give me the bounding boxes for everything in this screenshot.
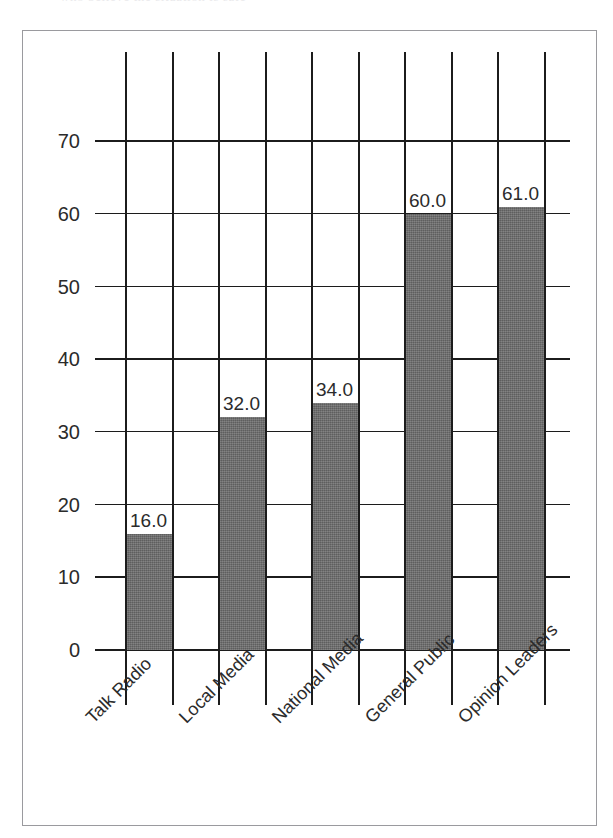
gridline-vertical <box>544 52 546 705</box>
gridline-vertical <box>358 52 360 705</box>
bar <box>313 403 358 650</box>
bar <box>499 207 544 650</box>
bar-value-label: 16.0 <box>128 509 168 533</box>
bar-value-label: 32.0 <box>221 392 261 416</box>
x-tick-label: Local Media <box>176 645 257 726</box>
y-tick-label: 0 <box>34 640 80 660</box>
y-tick-label: 70 <box>34 131 80 151</box>
gridline-vertical <box>451 52 453 705</box>
bar <box>220 417 265 650</box>
y-tick-label: 10 <box>34 567 80 587</box>
gridline-vertical <box>265 52 267 705</box>
bar <box>127 534 172 650</box>
bar-value-label: 60.0 <box>407 189 447 213</box>
x-tick-label: Talk Radio <box>83 654 155 726</box>
bar <box>406 214 451 650</box>
bar-value-label: 61.0 <box>500 182 540 206</box>
y-tick-label: 50 <box>34 277 80 297</box>
y-tick-label: 30 <box>34 422 80 442</box>
gridline-horizontal <box>95 140 570 142</box>
gridline-vertical <box>172 52 174 705</box>
y-tick-label: 60 <box>34 204 80 224</box>
y-tick-label: 40 <box>34 349 80 369</box>
bar-value-label: 34.0 <box>314 378 354 402</box>
y-tick-label: 20 <box>34 495 80 515</box>
bar-chart-plot-area: 01020304050607016.0Talk Radio32.0Local M… <box>0 0 613 838</box>
